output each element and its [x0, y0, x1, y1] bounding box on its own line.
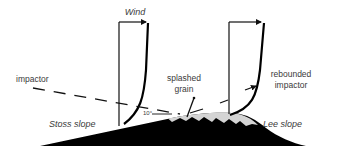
- splashed-grain-label-line2: grain: [175, 84, 194, 94]
- saltation-diagram: Wind impactor splashed grain rebounded i…: [0, 0, 337, 152]
- impactor-label: impactor: [16, 74, 49, 84]
- velocity-curve: [124, 23, 148, 124]
- velocity-curve: [230, 23, 264, 115]
- wind-label: Wind: [125, 7, 146, 17]
- dune: [40, 113, 306, 146]
- lee-slope-label: Lee slope: [263, 119, 302, 129]
- rebounded-impactor-label-line2: impactor: [275, 80, 308, 90]
- impactor-trajectory: [33, 88, 180, 114]
- stoss-slope-label: Stoss slope: [49, 119, 96, 129]
- angle-label: 10°: [143, 110, 153, 116]
- wind-profile-crest: [229, 22, 264, 115]
- splashed-grain-label-line1: splashed: [167, 73, 201, 83]
- rebounded-impactor-label-line1: rebounded: [271, 69, 312, 79]
